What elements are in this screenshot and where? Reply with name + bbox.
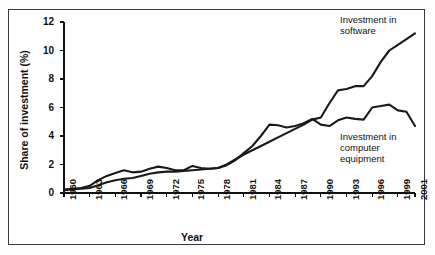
- x-tick-label: 1993: [351, 179, 361, 200]
- series-label-software: Investment in software: [340, 14, 397, 36]
- plot-canvas: [0, 0, 435, 255]
- x-axis-title: Year: [181, 231, 203, 243]
- series-label-computer-equipment: Investment in computer equipment: [340, 131, 397, 164]
- y-tick-label: 4: [32, 131, 54, 141]
- x-tick-label: 1990: [325, 179, 335, 200]
- x-tick-label: 1996: [376, 179, 386, 200]
- chart-figure: 024681012 196019631966196919721975197819…: [0, 0, 435, 255]
- tick-marks: [60, 22, 415, 197]
- x-tick-label: 1960: [68, 179, 78, 200]
- x-tick-label: 1978: [222, 179, 232, 200]
- x-tick-label: 1963: [94, 179, 104, 200]
- y-tick-label: 2: [32, 160, 54, 170]
- y-tick-label: 8: [32, 74, 54, 84]
- y-tick-label: 0: [32, 188, 54, 198]
- x-tick-label: 1984: [273, 179, 283, 200]
- x-tick-label: 1987: [299, 179, 309, 200]
- x-tick-label: 1972: [171, 179, 181, 200]
- y-axis-title: Share of investment (%): [18, 50, 30, 170]
- x-tick-label: 1981: [248, 179, 258, 200]
- data-series: [64, 33, 415, 190]
- x-tick-label: 1966: [119, 179, 129, 200]
- x-tick-label: 1969: [145, 179, 155, 200]
- x-tick-label: 1975: [196, 179, 206, 200]
- x-tick-label: 2001: [419, 179, 429, 200]
- series-line-software: [64, 33, 415, 190]
- axes: [64, 22, 415, 193]
- x-tick-label: 1999: [402, 179, 412, 200]
- y-tick-label: 10: [32, 46, 54, 56]
- y-tick-label: 6: [32, 103, 54, 113]
- y-tick-label: 12: [32, 17, 54, 27]
